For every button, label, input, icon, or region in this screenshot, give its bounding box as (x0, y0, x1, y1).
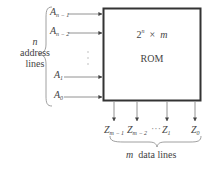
label-sub: 1 (168, 130, 171, 136)
label-sub: m − 1 (110, 130, 124, 136)
input-label-a-n-1: An − 1 (50, 7, 69, 20)
input-ellipsis-dot (87, 63, 88, 64)
output-ellipsis: ··· (151, 124, 161, 134)
input-ellipsis-dot (87, 57, 88, 58)
rom-diagram-graphics (0, 0, 214, 169)
input-ellipsis-dot (87, 51, 88, 52)
label-sub: n − 2 (56, 31, 69, 37)
address-lines-label: n address lines (18, 36, 52, 69)
data-lines-label: m data lines (126, 150, 176, 160)
label-sub: m − 2 (133, 130, 147, 136)
input-label-a-0: A0 (54, 90, 63, 103)
output-label-z-1: Z1 (162, 125, 171, 138)
label-sub: 1 (60, 75, 63, 81)
label-sub: 0 (60, 95, 63, 101)
output-label-z-m-1: Zm − 1 (104, 125, 124, 138)
input-label-a-n-2: An − 2 (50, 26, 69, 39)
label-sub: 0 (197, 130, 200, 136)
rom-size-label: 2n × m (103, 28, 201, 40)
address-label-word1: address (20, 47, 50, 58)
label-sub: n − 1 (56, 12, 69, 18)
input-label-a-1: A1 (54, 70, 63, 83)
size-exponent: n (142, 28, 145, 34)
data-lines-word: data lines (138, 149, 176, 160)
rom-name-label: ROM (103, 53, 201, 64)
output-label-z-0: Z0 (191, 125, 200, 138)
output-label-z-m-2: Zm − 2 (127, 125, 147, 138)
data-count-var: m (126, 149, 133, 160)
size-times: × (150, 29, 156, 40)
address-count-var: n (33, 36, 38, 47)
address-label-word2: lines (26, 58, 45, 69)
size-width: m (160, 29, 167, 40)
